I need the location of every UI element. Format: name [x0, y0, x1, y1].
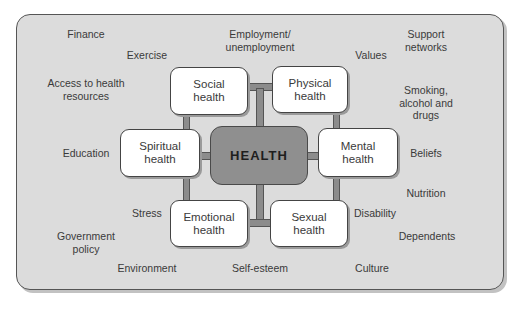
factor-access-to-health-resources: Access to health resources — [47, 77, 124, 102]
factor-beliefs: Beliefs — [410, 147, 442, 160]
factor-employment: Employment/ unemployment — [226, 28, 295, 53]
physical-health-node: Physical health — [272, 66, 348, 113]
factor-dependents: Dependents — [399, 230, 456, 243]
sexual-health-node: Sexual health — [270, 200, 348, 247]
factor-self-esteem: Self-esteem — [232, 262, 288, 275]
social-health-node: Social health — [170, 67, 248, 115]
factor-government-policy: Government policy — [57, 230, 115, 255]
health-center-node: HEALTH — [210, 126, 308, 185]
spiritual-health-node: Spiritual health — [120, 129, 200, 177]
factor-disability: Disability — [354, 207, 396, 220]
factor-education: Education — [63, 147, 110, 160]
factor-stress: Stress — [132, 207, 162, 220]
mental-health-node: Mental health — [318, 128, 398, 177]
factor-exercise: Exercise — [127, 49, 167, 62]
emotional-health-node: Emotional health — [170, 200, 248, 247]
factor-smoking-alcohol-drugs: Smoking, alcohol and drugs — [399, 84, 453, 122]
connector-bottom-vertical — [256, 183, 264, 223]
factor-nutrition: Nutrition — [406, 187, 445, 200]
connector-left-lower-vertical — [183, 175, 190, 202]
connector-right-lower-vertical — [333, 175, 340, 202]
factor-culture: Culture — [355, 262, 389, 275]
factor-support-networks: Support networks — [405, 28, 447, 53]
factor-values: Values — [355, 49, 386, 62]
connector-top-vertical — [256, 88, 264, 128]
factor-environment: Environment — [118, 262, 177, 275]
factor-finance: Finance — [67, 28, 104, 41]
